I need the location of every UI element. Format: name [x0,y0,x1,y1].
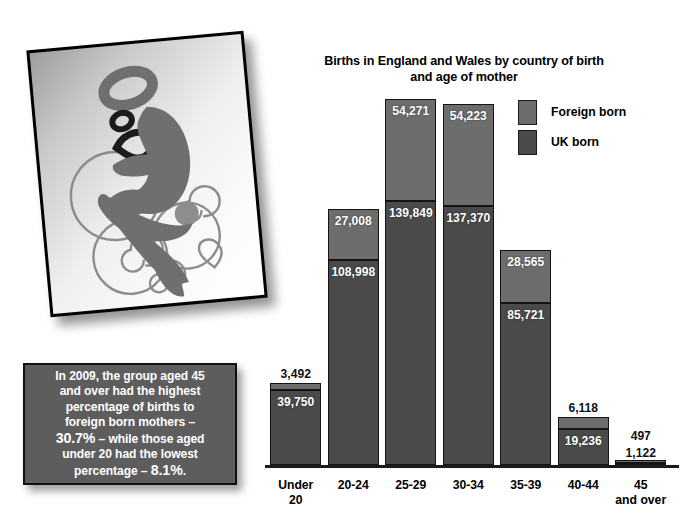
callout-line-4: foreign born mothers – [65,415,195,429]
callout-line-7-end: . [183,464,186,478]
x-tick-line: 25-29 [395,478,426,492]
bar-segment-uk-born[interactable] [328,260,379,466]
mother-and-child-illustration [30,34,265,314]
x-tick-line: 40-44 [568,478,599,492]
bar-value-label-uk-born: 139,849 [385,206,436,220]
bar-segment-foreign-born[interactable] [615,460,666,463]
bar-value-label-uk-born: 137,370 [443,211,494,225]
x-tick-45-and-over: 45and over [604,478,678,508]
callout-text: In 2009, the group aged 45 and over had … [47,369,212,479]
callout-pct-high: 30.7% [56,430,96,446]
bar-segment-uk-born[interactable] [385,201,436,465]
bar-value-label-foreign-born: 6,118 [543,401,624,415]
bar-value-label-foreign-born: 27,008 [328,214,379,228]
x-tick-line: 30-34 [453,478,484,492]
callout-line-6: under 20 had the lowest [62,447,197,461]
bar-group-35-39[interactable]: 85,72128,565 [500,250,551,465]
x-tick-line: 35-39 [510,478,541,492]
callout-line-3: percentage of births to [66,400,195,414]
bar-group-20-24[interactable]: 108,99827,008 [328,209,379,465]
callout-line-7-rest: percentage – [74,464,151,478]
x-tick-line: Under [278,478,313,492]
bar-value-label-uk-born: 108,998 [328,265,379,279]
bar-segment-foreign-born[interactable] [558,417,609,429]
callout-line-2: and over had the highest [60,384,201,398]
bar-chart: Births in England and Wales by country o… [255,40,689,519]
bar-value-label-uk-born: 85,721 [500,308,551,322]
callout-line-5-rest: – while those aged [95,432,204,446]
x-tick-line: 20 [289,493,303,507]
artwork-photo-card [26,31,267,318]
bar-value-label-uk-born: 39,750 [270,395,321,409]
bar-value-label-foreign-born: 54,271 [385,104,436,118]
plot-area: 39,7503,492108,99827,008139,84954,271137… [255,40,689,465]
x-tick-line: 45 [634,478,648,492]
bar-segment-uk-born[interactable] [500,303,551,465]
bar-group-under-20[interactable]: 39,7503,492 [270,383,321,465]
bar-segment-uk-born[interactable] [443,206,494,465]
x-axis-line [265,465,679,468]
callout-pct-low: 8.1% [151,462,183,478]
x-tick-line: 20-24 [338,478,369,492]
bar-value-label-foreign-born: 54,223 [443,109,494,123]
bar-segment-foreign-born[interactable] [270,383,321,390]
callout-line-1: In 2009, the group aged 45 [55,369,204,383]
bar-group-30-34[interactable]: 137,37054,223 [443,104,494,465]
bar-value-label-foreign-born: 28,565 [500,255,551,269]
bar-group-25-29[interactable]: 139,84954,271 [385,99,436,465]
bar-value-label-foreign-born: 497 [600,429,681,443]
callout-statistic-box: In 2009, the group aged 45 and over had … [23,363,237,485]
artwork-canvas [30,34,265,314]
x-axis-labels: Under2020-2425-2930-3435-3940-4445and ov… [255,470,689,519]
bar-value-label-uk-born: 1,122 [600,446,681,460]
x-tick-line: and over [615,493,666,507]
bar-value-label-foreign-born: 3,492 [255,367,336,381]
